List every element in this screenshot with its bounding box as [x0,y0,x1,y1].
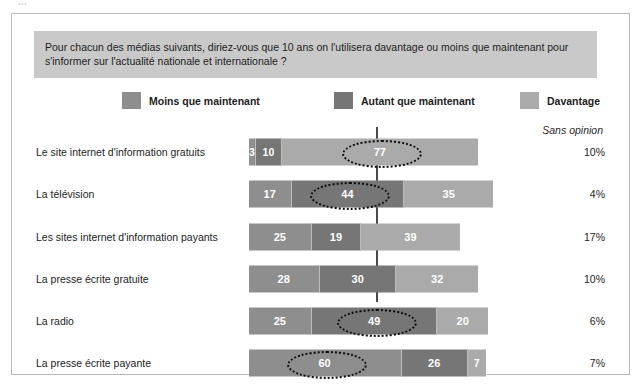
segment-value: 35 [443,189,455,200]
bar-segment-autant: 44 [292,181,404,208]
sans-opinion-value: 6% [590,315,605,327]
stacked-bar: 60267 [249,350,486,377]
bar-segment-moins: 3 [249,139,257,166]
stacked-bar: 31077 [249,139,479,166]
chart-row: Le site internet d'information gratuits3… [12,135,631,169]
bar-segment-davantage: 20 [437,308,488,335]
segment-value: 20 [457,316,469,327]
stacked-bar: 254920 [249,308,489,335]
bar-segment-autant: 10 [256,139,282,166]
bar-segment-moins: 28 [249,266,320,293]
bar-segment-moins: 17 [249,181,292,208]
segment-value: 17 [264,189,276,200]
plot-area: Le site internet d'information gratuits3… [12,14,631,376]
sans-opinion-value: 10% [584,273,605,285]
bar-segment-moins: 60 [249,350,402,377]
bar-segment-autant: 30 [320,266,397,293]
segment-value: 30 [352,274,364,285]
segment-value: 7 [474,358,480,369]
bar-segment-moins: 25 [249,308,313,335]
chart-panel: Pour chacun des médias suivants, diriez-… [11,13,630,375]
clipped-heading: ... [18,0,27,5]
bar-segment-davantage: 77 [282,139,478,166]
stacked-bar: 251939 [249,224,461,251]
segment-value: 25 [274,232,286,243]
bar-segment-moins: 25 [249,224,313,251]
chart-row: La radio2549206% [12,304,631,338]
segment-value: 49 [368,316,380,327]
row-label: Les sites internet d'information payants [36,231,218,243]
segment-value: 10 [263,147,275,158]
chart-row: Les sites internet d'information payants… [12,220,631,254]
chart-row: La presse écrite gratuite28303210% [12,262,631,296]
row-label: La radio [36,315,74,327]
sans-opinion-value: 17% [584,231,605,243]
sans-opinion-value: 7% [590,357,605,369]
segment-value: 19 [330,232,342,243]
stacked-bar: 174435 [249,181,494,208]
segment-value: 26 [428,358,440,369]
chart-row: La télévision1744354% [12,177,631,211]
row-label: La télévision [36,188,94,200]
stacked-bar: 283032 [249,266,479,293]
segment-value: 25 [274,316,286,327]
segment-value: 3 [249,147,255,158]
bar-segment-davantage: 7 [468,350,486,377]
segment-value: 32 [431,274,443,285]
segment-value: 77 [374,147,386,158]
segment-value: 28 [278,274,290,285]
bar-segment-davantage: 35 [404,181,493,208]
bar-segment-autant: 49 [312,308,437,335]
bar-segment-autant: 26 [402,350,468,377]
segment-value: 60 [318,358,330,369]
row-label: La presse écrite payante [36,357,151,369]
row-label: La presse écrite gratuite [36,273,149,285]
row-label: Le site internet d'information gratuits [36,146,205,158]
segment-value: 39 [404,232,416,243]
chart-row: La presse écrite payante602677% [12,346,631,380]
segment-value: 44 [341,189,353,200]
bar-segment-davantage: 39 [361,224,460,251]
bar-segment-davantage: 32 [396,266,478,293]
sans-opinion-value: 10% [584,146,605,158]
bar-segment-autant: 19 [312,224,360,251]
sans-opinion-value: 4% [590,188,605,200]
